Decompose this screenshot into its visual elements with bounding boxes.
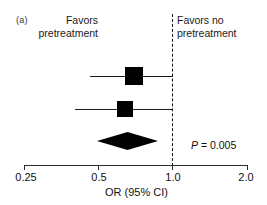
- x-axis-title: OR (95% CI): [0, 186, 267, 198]
- p-value-number: = 0.005: [198, 139, 236, 151]
- x-axis-tick-label: 1.0: [165, 171, 180, 183]
- favors-pretreatment-label: Favors pretreatment: [0, 14, 98, 39]
- x-axis-tick-label: 0.25: [15, 171, 36, 183]
- x-axis-line: [24, 165, 248, 166]
- p-symbol: P: [191, 139, 198, 151]
- effect-estimate-marker: [117, 101, 133, 117]
- x-axis-tick: [98, 165, 99, 170]
- effect-estimate-marker: [125, 67, 143, 85]
- p-value-annotation: P = 0.005: [191, 139, 236, 151]
- pooled-estimate-diamond: [97, 132, 158, 150]
- x-axis-tick: [247, 165, 248, 170]
- forest-plot-figure: (a) Favors pretreatment Favors no pretre…: [0, 0, 267, 205]
- x-axis-tick: [24, 165, 25, 170]
- x-axis-tick: [172, 165, 173, 170]
- favors-no-pretreatment-label: Favors no pretreatment: [177, 14, 267, 39]
- null-effect-line: [172, 14, 173, 166]
- x-axis-title-text: OR (95% CI): [105, 186, 168, 198]
- x-axis-tick-label: 2.0: [238, 171, 253, 183]
- x-axis-tick-label: 0.5: [91, 171, 106, 183]
